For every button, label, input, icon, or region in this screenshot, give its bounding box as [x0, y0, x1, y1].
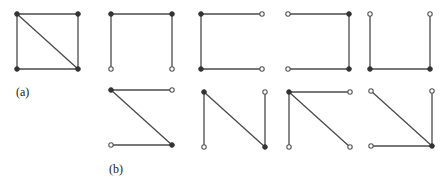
vertex-TR-icon: [263, 90, 267, 94]
vertex-BL-icon: [287, 145, 291, 149]
edge-TL-BR: [204, 92, 265, 147]
edge-TL-BR: [371, 91, 432, 146]
tree-b3: [286, 12, 352, 72]
vertex-TR-icon: [76, 12, 81, 17]
graphs-layer: [15, 12, 435, 150]
vertex-BR-icon: [76, 67, 81, 72]
tree-b7: [287, 90, 352, 150]
vertex-TR-icon: [170, 88, 174, 92]
tree-b2: [199, 12, 264, 72]
vertex-TR-icon: [170, 12, 175, 17]
vertex-TL-icon: [202, 90, 207, 95]
vertex-TR-icon: [430, 89, 434, 93]
vertex-TL-icon: [15, 12, 20, 17]
vertex-BR-icon: [347, 67, 352, 72]
tree-b6: [202, 90, 268, 150]
vertex-BL-icon: [109, 67, 113, 71]
vertex-BL-icon: [199, 67, 204, 72]
vertex-BL-icon: [369, 144, 373, 148]
vertex-BR-icon: [430, 144, 435, 149]
vertex-TR-icon: [428, 12, 432, 16]
vertex-BL-icon: [286, 67, 290, 71]
tree-b1: [109, 12, 175, 72]
vertex-BL-icon: [109, 143, 113, 147]
vertex-TR-icon: [260, 12, 264, 16]
vertex-BR-icon: [348, 145, 352, 149]
vertex-BR-icon: [170, 67, 174, 71]
edge-TL-BR: [111, 90, 172, 145]
figure-canvas: (a) (b): [0, 0, 446, 182]
vertex-TL-icon: [109, 88, 114, 93]
vertex-BR-icon: [170, 143, 175, 148]
tree-b8: [369, 89, 435, 149]
graph-a: [15, 12, 81, 72]
vertex-TR-icon: [347, 12, 352, 17]
label-a: (a): [16, 85, 29, 99]
edge-TL-BR: [17, 14, 78, 69]
vertex-TL-icon: [287, 90, 292, 95]
edge-TL-BR: [289, 92, 350, 147]
tree-b5: [109, 88, 175, 148]
vertex-BL-icon: [15, 67, 20, 72]
label-b: (b): [109, 162, 123, 176]
vertex-BR-icon: [428, 67, 433, 72]
vertex-BL-icon: [202, 145, 206, 149]
vertex-BL-icon: [368, 67, 373, 72]
tree-b4: [368, 12, 433, 71]
vertex-TR-icon: [348, 90, 352, 94]
vertex-TL-icon: [109, 12, 114, 17]
vertex-TL-icon: [368, 12, 372, 16]
vertex-TL-icon: [369, 89, 373, 93]
vertex-TL-icon: [199, 12, 204, 17]
vertex-TL-icon: [286, 12, 290, 16]
vertex-BR-icon: [260, 67, 264, 71]
vertex-BR-icon: [263, 145, 268, 150]
